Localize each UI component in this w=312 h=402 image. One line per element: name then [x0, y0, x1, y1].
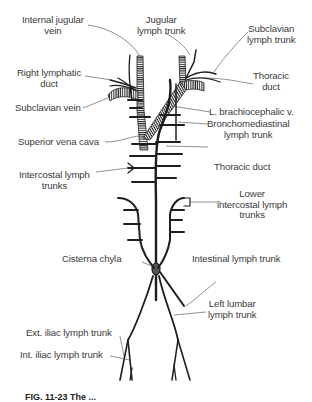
label-internal-jugular-vein: Internal jugular vein: [22, 15, 84, 36]
label-thoracic-duct-upper: Thoracic duct: [253, 71, 289, 92]
label-subclavian-vein: Subclavian vein: [15, 103, 81, 114]
intestinal-lymph-trunk: [160, 272, 184, 306]
label-int-iliac-lymph-trunk: Int. iliac lymph trunk: [20, 350, 103, 361]
lymph-vessels: [110, 50, 220, 380]
label-subclavian-lymph-trunk: Subclavian lymph trunk: [247, 24, 296, 45]
label-right-lymphatic-duct: Right lymphatic duct: [17, 68, 81, 89]
label-superior-vena-cava: Superior vena cava: [18, 137, 99, 148]
right-lumbar-lymph-trunk: [128, 276, 153, 340]
label-l-brachiocephalic-v: L. brachiocephalic v.: [209, 107, 294, 118]
label-intercostal-lymph-trunks: Intercostal lymph trunks: [19, 170, 90, 191]
right-ext-iliac-trunk: [120, 340, 128, 380]
figure-caption: FIG. 11-23 The ...: [25, 392, 96, 402]
label-left-lumbar-lymph-trunk: Left lumbar lymph trunk: [208, 299, 257, 320]
left-ext-iliac-trunk: [178, 340, 190, 380]
label-lower-intercostal-lymph-trunks: Lower intercostal lymph trunks: [217, 189, 287, 221]
cisterna-chyla: [152, 263, 160, 275]
label-cisterna-chyla: Cisterna chyla: [62, 254, 121, 265]
label-thoracic-duct: Thoracic duct: [214, 162, 270, 173]
label-ext-iliac-lymph-trunk: Ext. iliac lymph trunk: [26, 328, 112, 339]
label-jugular-lymph-trunk: Jugular lymph trunk: [137, 15, 186, 36]
label-bronchomediastinal-lymph-trunk: Bronchomediastinal lymph trunk: [207, 119, 289, 140]
label-intestinal-lymph-trunk: Intestinal lymph trunk: [192, 254, 280, 265]
left-brachiocephalic-vein: [143, 82, 186, 140]
